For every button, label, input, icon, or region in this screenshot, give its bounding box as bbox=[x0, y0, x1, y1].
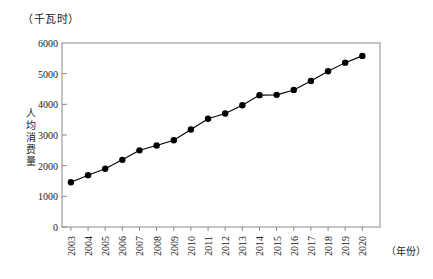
data-point bbox=[342, 59, 348, 65]
x-axis-tick-label: 2020 bbox=[357, 236, 368, 256]
x-axis-tick-label: 2015 bbox=[271, 236, 282, 256]
data-point bbox=[188, 126, 194, 132]
x-axis-tick-label: 2011 bbox=[203, 236, 214, 256]
data-point bbox=[68, 179, 74, 185]
data-point bbox=[119, 157, 125, 163]
data-point bbox=[85, 172, 91, 178]
data-point bbox=[239, 102, 245, 108]
x-axis-tick-label: 2010 bbox=[185, 236, 196, 256]
data-point bbox=[171, 137, 177, 143]
data-point bbox=[256, 92, 262, 98]
data-line bbox=[71, 56, 362, 182]
x-axis-tick-label: 2013 bbox=[237, 236, 248, 256]
data-point bbox=[205, 116, 211, 122]
x-axis-ticks bbox=[71, 227, 362, 231]
x-axis-tick-label: 2004 bbox=[83, 236, 94, 256]
x-axis-tick-label: 2016 bbox=[288, 236, 299, 256]
chart-figure: （千瓦时） 人均消费量 0100020003000400050006000 （年… bbox=[0, 0, 433, 279]
data-point bbox=[102, 166, 108, 172]
data-point bbox=[136, 147, 142, 153]
data-point bbox=[291, 87, 297, 93]
data-point bbox=[325, 68, 331, 74]
x-axis-tick-label: 2014 bbox=[254, 236, 265, 256]
x-axis-tick-label: 2019 bbox=[340, 236, 351, 256]
x-axis-tick-label: 2008 bbox=[151, 236, 162, 256]
x-axis-tick-label: 2007 bbox=[134, 236, 145, 256]
x-axis-tick-label: 2003 bbox=[65, 236, 76, 256]
x-axis-tick-label: 2012 bbox=[220, 236, 231, 256]
x-axis-tick-label: 2009 bbox=[168, 236, 179, 256]
plot-frame bbox=[62, 43, 380, 227]
data-point bbox=[153, 142, 159, 148]
data-point bbox=[308, 78, 314, 84]
x-axis-tick-label: 2006 bbox=[117, 236, 128, 256]
data-point bbox=[222, 110, 228, 116]
data-point bbox=[359, 53, 365, 59]
x-axis-tick-label: 2018 bbox=[323, 236, 334, 256]
data-point bbox=[273, 92, 279, 98]
y-axis-ticks bbox=[62, 74, 67, 227]
x-axis-tick-label: 2005 bbox=[100, 236, 111, 256]
x-axis-tick-label: 2017 bbox=[305, 236, 316, 256]
